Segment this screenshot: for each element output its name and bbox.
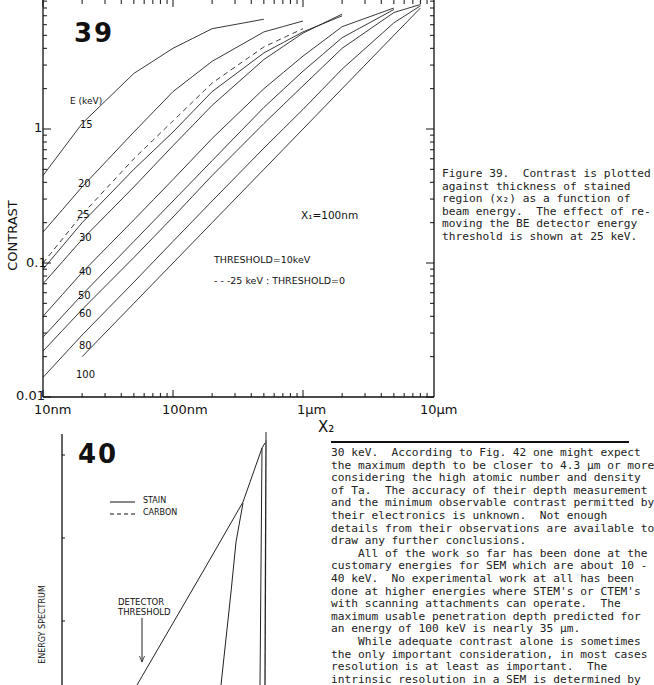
energy-label-50: 50 <box>78 290 91 301</box>
xtick-10nm: 10nm <box>34 402 71 417</box>
body-line: intrinsic resolution in a SEM is determi… <box>331 674 654 685</box>
legend-dashed: - - -25 keV : THRESHOLD=0 <box>214 275 345 286</box>
body-text: 30 keV. According to Fig. 42 one might e… <box>331 447 654 685</box>
legend-carbon: CARBON <box>143 508 177 517</box>
xtick-100nm: 100nm <box>162 402 208 417</box>
body-line: 30 keV. According to Fig. 42 one might e… <box>331 447 654 460</box>
body-line: resolution is at least as important. The <box>331 661 654 674</box>
energy-label-40: 40 <box>79 266 92 277</box>
ytick-1: 1 <box>34 120 42 135</box>
figure-39-number: 39 <box>74 18 114 48</box>
curve-100-kev <box>82 8 420 357</box>
caption-line: Figure 39. Contrast is plotted <box>442 168 651 181</box>
energy-label-30: 30 <box>79 232 92 243</box>
x1-annotation: X₁=100nm <box>301 209 358 221</box>
figure-39-caption: Figure 39. Contrast is plotted against t… <box>442 168 651 244</box>
detector-label-2: THRESHOLD <box>118 607 171 617</box>
xtick-1um: 1µm <box>297 402 326 417</box>
energy-label-80: 80 <box>79 340 92 351</box>
energy-header: E (keV) <box>70 96 102 106</box>
curve-60-kev <box>43 5 420 352</box>
energy-label-15: 15 <box>80 119 93 130</box>
energy-label-20: 20 <box>78 178 91 189</box>
caption-line: region (x₂) as a function of <box>442 193 651 206</box>
xtick-10um: 10µm <box>420 402 457 417</box>
figure-40-y-label: ENERGY SPECTRUM <box>38 575 47 675</box>
energy-label-25: 25 <box>77 209 90 220</box>
section-rule <box>331 441 629 443</box>
figure-40-number: 40 <box>78 439 118 469</box>
energy-label-100: 100 <box>76 369 95 380</box>
body-line: While adequate contrast alone is sometim… <box>331 636 654 649</box>
x-axis-label: X₂ <box>318 418 334 436</box>
legend-stain: STAIN <box>143 496 166 505</box>
y-axis-label: CONTRAST <box>5 186 20 286</box>
caption-line: threshold is shown at 25 keV. <box>442 231 651 244</box>
curve-40-kev <box>43 8 394 316</box>
body-line: with scanning attachments can operate. T… <box>331 598 654 611</box>
legend-threshold: THRESHOLD=10keV <box>214 254 310 265</box>
body-line: 40 keV. No experimental work at all has … <box>331 573 654 586</box>
body-line: draw any further conclusions. <box>331 535 654 548</box>
curve-50-kev <box>43 10 394 338</box>
body-line: considering the high atomic number and d… <box>331 472 654 485</box>
body-line: their electronics is unknown. Not enough <box>331 510 654 523</box>
detector-label-1: DETECTOR <box>118 597 164 607</box>
ytick-0.01: 0.01 <box>16 388 45 403</box>
curve-80-kev <box>43 6 420 378</box>
ytick-0.1: 0.1 <box>26 255 47 270</box>
energy-label-60: 60 <box>79 308 92 319</box>
